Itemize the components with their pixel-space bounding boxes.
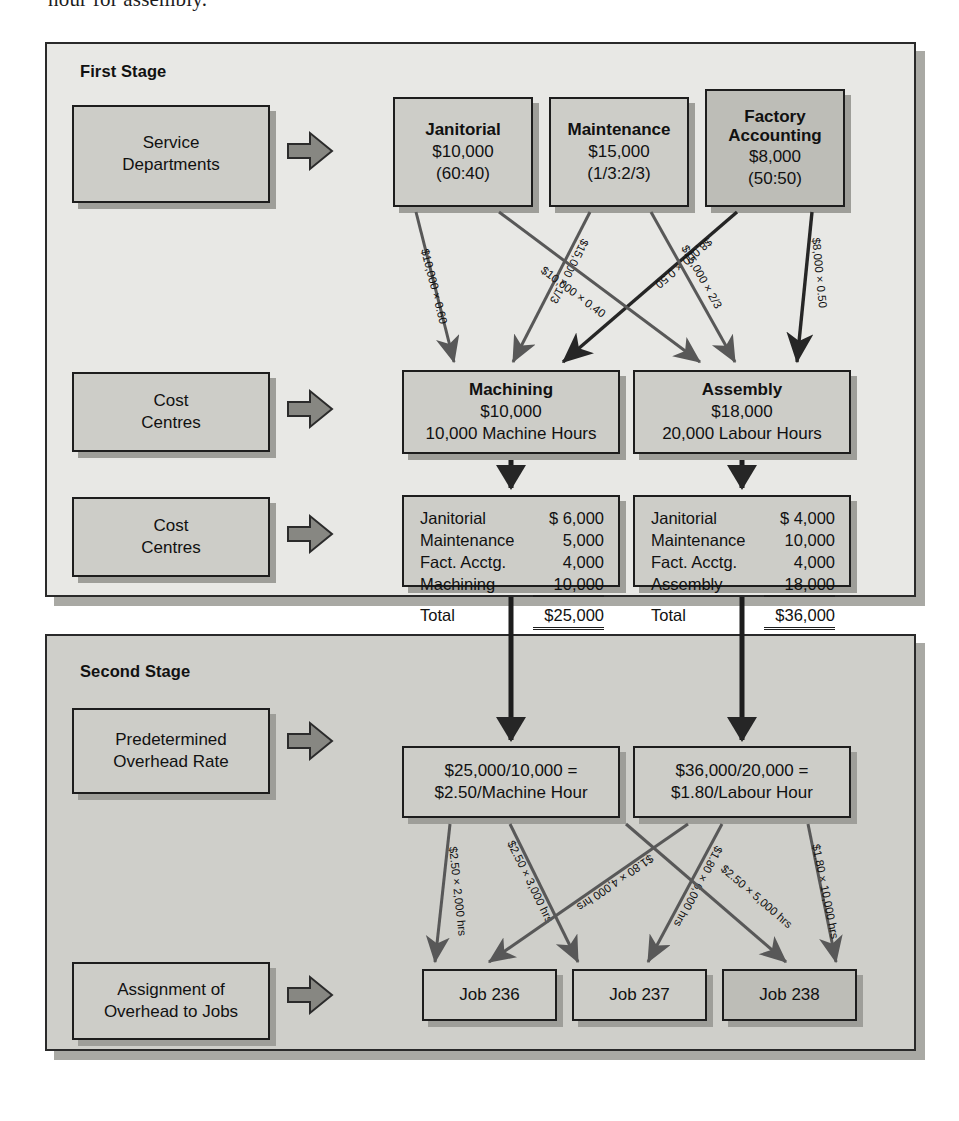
rate-line-2: $1.80/Labour Hour — [671, 782, 813, 804]
label-line-1: Service — [143, 132, 200, 154]
dept-amount: $8,000 — [749, 146, 801, 168]
label-line-1: Predetermined — [115, 729, 227, 751]
summary-row-label: Janitorial — [420, 507, 533, 529]
summary-row-label: Fact. Acctg. — [651, 551, 764, 573]
label-line-1: Cost — [154, 390, 189, 412]
job-label: Job 238 — [759, 984, 820, 1006]
label-line-2: Centres — [141, 537, 201, 559]
summary-row-value: 5,000 — [533, 529, 604, 551]
summary-total-value: $36,000 — [764, 596, 835, 628]
rate-line-2: $2.50/Machine Hour — [434, 782, 587, 804]
centre-name: Machining — [469, 379, 553, 401]
label-line-2: Departments — [122, 154, 219, 176]
box-machining: Machining $10,000 10,000 Machine Hours — [402, 370, 620, 454]
box-rate-assembly: $36,000/20,000 = $1.80/Labour Hour — [633, 746, 851, 818]
label-cost-centres-1: Cost Centres — [72, 372, 270, 452]
label-line-2: Overhead Rate — [113, 751, 228, 773]
job-label: Job 237 — [609, 984, 670, 1006]
centre-base: 10,000 Machine Hours — [425, 423, 596, 445]
dept-name: Maintenance — [568, 119, 671, 141]
centre-amount: $18,000 — [711, 401, 772, 423]
summary-total-label: Total — [420, 596, 533, 628]
summary-row-label: Maintenance — [651, 529, 764, 551]
page-cutoff-text: hour for assembly. — [48, 0, 207, 12]
summary-row-label: Machining — [420, 573, 533, 596]
dept-ratio: (1/3:2/3) — [587, 163, 650, 185]
job-label: Job 236 — [459, 984, 520, 1006]
diagram-canvas: hour for assembly. First Stage Service D… — [0, 0, 959, 1121]
box-assembly: Assembly $18,000 20,000 Labour Hours — [633, 370, 851, 454]
label-service-departments: Service Departments — [72, 105, 270, 203]
summary-assembly: Janitorial $ 4,000 Maintenance 10,000 Fa… — [633, 495, 851, 587]
label-line-1: Cost — [154, 515, 189, 537]
label-line-2: Centres — [141, 412, 201, 434]
label-line-1: Assignment of — [117, 979, 225, 1001]
box-janitorial: Janitorial $10,000 (60:40) — [393, 97, 533, 207]
summary-row-value: 18,000 — [764, 573, 835, 596]
summary-row-value: 10,000 — [764, 529, 835, 551]
label-assignment-of-overhead-to-jobs: Assignment of Overhead to Jobs — [72, 962, 270, 1040]
summary-machining: Janitorial $ 6,000 Maintenance 5,000 Fac… — [402, 495, 620, 587]
centre-base: 20,000 Labour Hours — [662, 423, 822, 445]
box-job-237: Job 237 — [572, 969, 707, 1021]
summary-total-label: Total — [651, 596, 764, 628]
summary-total-value: $25,000 — [533, 596, 604, 628]
label-cost-centres-2: Cost Centres — [72, 497, 270, 577]
summary-row-value: 4,000 — [764, 551, 835, 573]
summary-row-label: Maintenance — [420, 529, 533, 551]
box-rate-machining: $25,000/10,000 = $2.50/Machine Hour — [402, 746, 620, 818]
dept-amount: $15,000 — [588, 141, 649, 163]
rate-line-1: $36,000/20,000 = — [676, 760, 809, 782]
dept-amount: $10,000 — [432, 141, 493, 163]
first-stage-title: First Stage — [80, 62, 166, 81]
summary-row-value: 10,000 — [533, 573, 604, 596]
summary-row-label: Assembly — [651, 573, 764, 596]
summary-row-label: Fact. Acctg. — [420, 551, 533, 573]
label-line-2: Overhead to Jobs — [104, 1001, 238, 1023]
summary-row-value: $ 6,000 — [533, 507, 604, 529]
dept-ratio: (50:50) — [748, 168, 802, 190]
box-maintenance: Maintenance $15,000 (1/3:2/3) — [549, 97, 689, 207]
dept-ratio: (60:40) — [436, 163, 490, 185]
summary-row-label: Janitorial — [651, 507, 764, 529]
label-predetermined-overhead-rate: Predetermined Overhead Rate — [72, 708, 270, 794]
box-job-238: Job 238 — [722, 969, 857, 1021]
dept-name: Janitorial — [425, 119, 501, 141]
centre-amount: $10,000 — [480, 401, 541, 423]
summary-row-value: $ 4,000 — [764, 507, 835, 529]
centre-name: Assembly — [702, 379, 782, 401]
summary-row-value: 4,000 — [533, 551, 604, 573]
rate-line-1: $25,000/10,000 = — [445, 760, 578, 782]
box-job-236: Job 236 — [422, 969, 557, 1021]
second-stage-title: Second Stage — [80, 662, 190, 681]
dept-name: Factory Accounting — [707, 107, 843, 146]
box-factory-accounting: Factory Accounting $8,000 (50:50) — [705, 89, 845, 207]
